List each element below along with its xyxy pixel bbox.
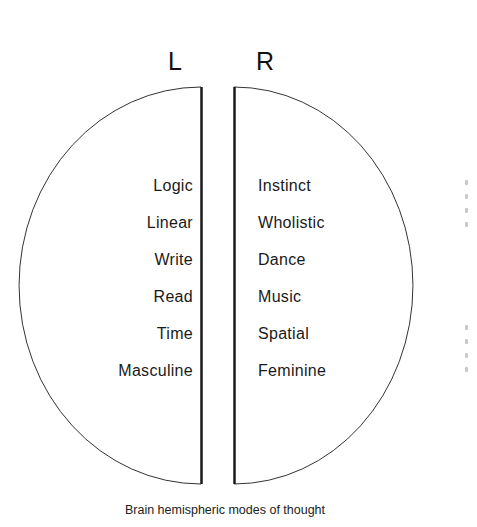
right-term: Feminine	[258, 360, 326, 397]
brain-hemisphere-diagram: L R Logic Linear Write Read Time Masculi…	[0, 0, 477, 527]
left-term: Masculine	[118, 360, 193, 397]
scan-artifact	[465, 325, 471, 381]
left-term: Write	[118, 249, 193, 286]
right-term: Wholistic	[258, 212, 326, 249]
left-hemisphere-terms: Logic Linear Write Read Time Masculine	[118, 175, 193, 397]
right-term: Spatial	[258, 323, 326, 360]
left-term: Time	[118, 323, 193, 360]
right-term: Instinct	[258, 175, 326, 212]
left-term: Linear	[118, 212, 193, 249]
left-term: Read	[118, 286, 193, 323]
left-hemisphere-label: L	[168, 49, 182, 74]
right-hemisphere-label: R	[256, 49, 274, 74]
scan-artifact	[465, 180, 471, 236]
hemisphere-outline	[0, 0, 477, 527]
right-term: Music	[258, 286, 326, 323]
right-hemisphere-terms: Instinct Wholistic Dance Music Spatial F…	[258, 175, 326, 397]
left-term: Logic	[118, 175, 193, 212]
right-term: Dance	[258, 249, 326, 286]
figure-caption: Brain hemispheric modes of thought	[0, 503, 450, 517]
